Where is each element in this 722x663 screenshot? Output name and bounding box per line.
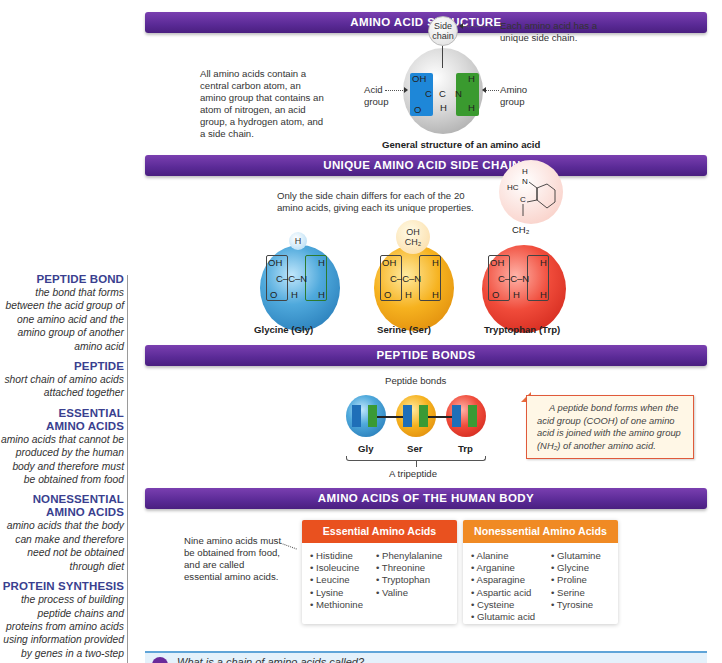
- atom-label: H: [291, 290, 298, 300]
- atom-h-central: H: [440, 103, 447, 113]
- glossary-term: PEPTIDE BOND: [0, 273, 124, 286]
- glycine-side-chain: H: [289, 232, 307, 250]
- structure-caption: General structure of an amino acid: [382, 139, 540, 150]
- glossary-term: ESSENTIAL AMINO ACIDS: [0, 407, 124, 433]
- atom-label: H: [540, 290, 547, 300]
- glossary-definition: the bond that forms between the acid gro…: [0, 286, 124, 353]
- atom-label: H: [432, 290, 439, 300]
- amino-group-label: Amino group: [500, 84, 530, 108]
- svg-text:N: N: [522, 177, 528, 186]
- glossary-term: PEPTIDE: [0, 360, 124, 373]
- glossary-definition: amino acids that the body can make and t…: [0, 519, 124, 573]
- list-item: Leucine: [310, 574, 376, 586]
- review-question-bar: What is a chain of amino acids called?: [145, 651, 707, 663]
- glossary-entry: PEPTIDE short chain of amino acids attac…: [0, 360, 124, 400]
- bracket-stem: [416, 461, 417, 467]
- list-item: Histidine: [310, 550, 376, 562]
- arrow-icon: [459, 23, 463, 29]
- list-item: Glycine: [551, 562, 601, 574]
- list-item: Threonine: [376, 562, 442, 574]
- side-chain-note: Each amino acid has a unique side chain.: [500, 20, 600, 44]
- atom-label: H: [540, 258, 547, 268]
- nonessential-header: Nonessential Amino Acids: [463, 520, 618, 543]
- arrow-icon: [482, 87, 486, 93]
- atom-label: C–C–N: [498, 274, 529, 284]
- atom-label: C–C–N: [390, 274, 421, 284]
- atom-h-amino-bottom: H: [468, 103, 475, 113]
- list-item: Valine: [376, 587, 442, 599]
- atom-label: OH: [382, 258, 396, 268]
- atom-c-central: C: [439, 89, 446, 99]
- atom-n: N: [455, 89, 462, 99]
- essential-note: Nine amino acids must be obtained from f…: [184, 535, 284, 583]
- list-item: Glutamine: [551, 550, 601, 562]
- list-item: Cysteine: [471, 599, 551, 611]
- acid-pointer: [385, 90, 405, 91]
- peptide-bonds-label: Peptide bonds: [385, 375, 446, 387]
- residue-trp: Trp: [458, 443, 473, 454]
- residue-gly: Gly: [358, 443, 373, 454]
- nonessential-col-1: Alanine Arganine Asparagine Aspartic aci…: [471, 550, 551, 623]
- glossary-divider: [127, 275, 128, 663]
- list-item: Serine: [551, 587, 601, 599]
- peptide-bond-line: [377, 416, 403, 418]
- review-question: What is a chain of amino acids called?: [177, 656, 364, 663]
- atom-c-acid: C: [425, 89, 432, 99]
- atom-o: O: [414, 105, 421, 115]
- amino-pointer: [486, 90, 499, 91]
- glossary-definition: the process of building peptide chains a…: [0, 593, 124, 660]
- glossary-entry: PEPTIDE BOND the bond that forms between…: [0, 273, 124, 353]
- atom-label: CH₂: [512, 225, 529, 235]
- list-item: Glutamic acid: [471, 611, 551, 623]
- glossary-term: NONESSENTIAL AMINO ACIDS: [0, 493, 124, 519]
- glossary-entry: PROTEIN SYNTHESIS the process of buildin…: [0, 580, 124, 660]
- side-chain-pointer: [463, 26, 497, 27]
- side-chain-label: Side chain: [429, 21, 457, 41]
- question-icon: [152, 657, 168, 663]
- glossary-term: PROTEIN SYNTHESIS: [0, 580, 124, 593]
- glossary-definition: short chain of amino acids attached toge…: [0, 373, 124, 400]
- banner-human-body: AMINO ACIDS OF THE HUMAN BODY: [145, 488, 707, 509]
- banner-peptide-bonds: PEPTIDE BONDS: [145, 345, 707, 366]
- atom-h-amino-top: H: [468, 74, 475, 84]
- amino-block: [368, 405, 377, 427]
- residue-ser: Ser: [407, 443, 422, 454]
- glossary-definition: amino acids that cannot be produced by t…: [0, 433, 124, 487]
- serine-caption: Serine (Ser): [377, 324, 431, 335]
- tripeptide-label: A tripeptide: [389, 468, 437, 480]
- amino-block: [468, 405, 477, 427]
- indole-ring-icon: H N HC C: [503, 164, 559, 220]
- list-item: Aspartic acid: [471, 587, 551, 599]
- svg-text:C: C: [520, 195, 526, 204]
- serine-side-chain: OHCH₂: [396, 220, 430, 254]
- acid-block: [403, 405, 412, 427]
- list-item: Phenylalanine: [376, 550, 442, 562]
- side-chain-bubble: Side chain: [428, 16, 458, 46]
- atom-label: H: [318, 258, 325, 268]
- list-item: Proline: [551, 574, 601, 586]
- nonessential-col-2: Glutamine Glycine Proline Serine Tyrosin…: [551, 550, 601, 623]
- peptide-bond-line: [428, 416, 452, 418]
- arrow-icon: [404, 87, 408, 93]
- structure-intro: All amino acids contain a central carbon…: [200, 68, 325, 140]
- amino-block: [419, 405, 428, 427]
- list-item: Arganine: [471, 562, 551, 574]
- essential-col-2: Phenylalanine Threonine Tryptophan Valin…: [376, 550, 442, 611]
- atom-label: H: [405, 290, 412, 300]
- acid-block: [452, 405, 461, 427]
- essential-header: Essential Amino Acids: [302, 520, 457, 543]
- glycine-caption: Glycine (Gly): [254, 324, 313, 335]
- svg-text:H: H: [522, 167, 528, 176]
- atom-oh: OH: [412, 74, 426, 84]
- atom-label: OH: [268, 258, 282, 268]
- list-item: Lysine: [310, 587, 376, 599]
- list-item: Tyrosine: [551, 599, 601, 611]
- glossary-entry: ESSENTIAL AMINO ACIDS amino acids that c…: [0, 407, 124, 487]
- banner-unique-side-chains: UNIQUE AMINO ACID SIDE CHAINS: [145, 155, 707, 176]
- acid-block: [352, 405, 361, 427]
- atom-label: H: [318, 290, 325, 300]
- list-item: Isoleucine: [310, 562, 376, 574]
- essential-card: Essential Amino Acids Histidine Isoleuci…: [302, 520, 457, 624]
- list-item: Alanine: [471, 550, 551, 562]
- tryptophan-side-chain: H N HC C: [499, 160, 563, 224]
